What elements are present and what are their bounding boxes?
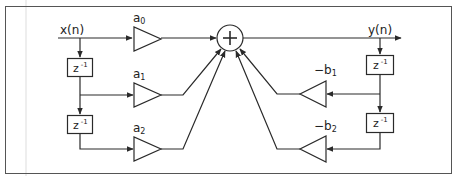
- gain-label-a1: a1: [133, 67, 145, 82]
- gain-label-a0: a0: [133, 11, 145, 26]
- gain-label-a2: a2: [133, 121, 145, 136]
- gain-triangle-b2: [300, 136, 326, 162]
- b1-to-summer: [240, 49, 300, 94]
- a2-to-summer: [161, 51, 225, 149]
- gain-triangle-a2: [134, 137, 161, 161]
- input-label: x(n): [60, 23, 84, 37]
- output-label: y(n): [368, 23, 392, 37]
- a1-to-summer: [161, 49, 221, 95]
- gain-label-b2: −b2: [314, 119, 337, 134]
- gain-triangle-b1: [300, 81, 326, 107]
- gain-triangle-a1: [134, 83, 161, 107]
- branch-to-a2: [80, 134, 133, 149]
- gain-triangle-a0: [134, 27, 161, 51]
- b2-to-summer: [236, 51, 300, 149]
- biquad-block-diagram: x(n) y(n) a0 a1 a2 −b1 −b2 z-1 z-1 z-1 z…: [0, 0, 464, 176]
- branch-to-b2: [327, 133, 380, 149]
- gain-label-b1: −b1: [314, 63, 337, 78]
